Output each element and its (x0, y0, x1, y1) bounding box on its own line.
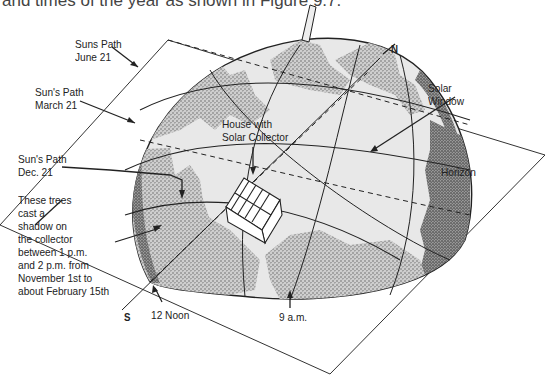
label-horizon: Horizon (441, 166, 476, 179)
label-dec-path: Sun's Path Dec. 21 (18, 153, 67, 179)
label-nine-am: 9 a.m. (279, 311, 307, 324)
label-march-path: Sun's Path March 21 (35, 86, 84, 112)
label-noon: 12 Noon (151, 309, 189, 322)
label-house: House with Solar Collector (222, 118, 288, 144)
pole (302, 5, 316, 42)
label-june-path: Suns Path June 21 (75, 38, 122, 64)
label-north: N (391, 43, 398, 56)
label-trees-note: These trees cast a shadow on the collect… (18, 194, 109, 298)
label-south: S (124, 311, 130, 324)
label-solar-window: Solar Window (428, 82, 464, 108)
